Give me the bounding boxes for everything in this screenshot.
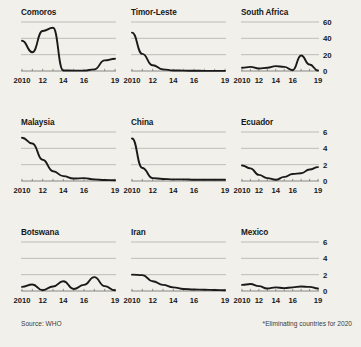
y-tick-label: 60 bbox=[323, 18, 332, 27]
x-tick-label: 19 bbox=[314, 186, 322, 195]
x-axis-labels: 201012141619 bbox=[241, 296, 319, 307]
y-tick-label: 0 bbox=[323, 177, 327, 186]
x-tick-label: 12 bbox=[255, 186, 263, 195]
chart-panel-ecuador: Ecuador2010121416196420 bbox=[0, 118, 361, 201]
x-axis-labels: 201012141619 bbox=[241, 76, 319, 87]
plot-area bbox=[241, 21, 319, 77]
y-tick-label: 6 bbox=[323, 128, 327, 137]
x-tick-label: 19 bbox=[314, 296, 322, 305]
data-line bbox=[242, 284, 318, 288]
plot-area bbox=[241, 241, 319, 297]
x-tick-label: 14 bbox=[272, 76, 280, 85]
y-tick-label: 0 bbox=[323, 67, 327, 76]
panel-title: South Africa bbox=[241, 8, 288, 18]
y-tick-label: 6 bbox=[323, 238, 327, 247]
data-line bbox=[242, 165, 318, 179]
y-tick-label: 0 bbox=[323, 287, 327, 296]
y-axis-labels: 6420 bbox=[323, 131, 345, 187]
figure-footer: Source: WHO *Eliminating countries for 2… bbox=[0, 320, 361, 334]
x-tick-label: 12 bbox=[255, 296, 263, 305]
plot-area bbox=[241, 131, 319, 187]
y-axis-labels: 6040200 bbox=[323, 21, 345, 77]
x-axis-labels: 201012141619 bbox=[241, 186, 319, 197]
x-tick-label: 14 bbox=[272, 186, 280, 195]
y-tick-label: 4 bbox=[323, 144, 327, 153]
x-tick-label: 2010 bbox=[234, 186, 251, 195]
source-note: Source: WHO bbox=[21, 320, 62, 327]
x-tick-label: 14 bbox=[272, 296, 280, 305]
chart-panel-mexico: Mexico2010121416196420 bbox=[0, 228, 361, 311]
y-tick-label: 20 bbox=[323, 50, 332, 59]
y-tick-label: 2 bbox=[323, 270, 327, 279]
y-tick-label: 4 bbox=[323, 254, 327, 263]
data-line bbox=[242, 55, 318, 70]
panel-grid: Comoros201012141619Timor-Leste2010121416… bbox=[0, 0, 361, 312]
x-tick-label: 16 bbox=[288, 186, 296, 195]
x-tick-label: 16 bbox=[288, 76, 296, 85]
y-tick-label: 2 bbox=[323, 160, 327, 169]
x-tick-label: 16 bbox=[288, 296, 296, 305]
x-tick-label: 12 bbox=[255, 76, 263, 85]
y-axis-labels: 6420 bbox=[323, 241, 345, 297]
x-tick-label: 19 bbox=[314, 76, 322, 85]
small-multiples-figure: Comoros201012141619Timor-Leste2010121416… bbox=[0, 0, 361, 347]
y-tick-label: 40 bbox=[323, 34, 332, 43]
eliminating-countries-note: *Eliminating countries for 2020 bbox=[263, 320, 352, 327]
panel-title: Mexico bbox=[241, 228, 268, 238]
x-tick-label: 2010 bbox=[234, 296, 251, 305]
x-tick-label: 2010 bbox=[234, 76, 251, 85]
chart-panel-south-africa: South Africa2010121416196040200 bbox=[0, 8, 361, 91]
panel-title: Ecuador bbox=[241, 118, 273, 128]
